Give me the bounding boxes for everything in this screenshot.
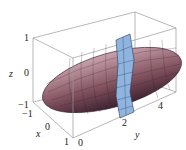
- y-axis-label: y: [135, 130, 139, 140]
- x-tick-0: 0: [45, 122, 50, 132]
- z-axis-label: z: [9, 69, 13, 79]
- z-tick-1: 1: [24, 33, 29, 43]
- y-tick-4: 4: [158, 101, 163, 111]
- band-surface: [116, 34, 134, 118]
- y-tick-2: 2: [122, 118, 127, 128]
- x-tick-minus1: −1: [22, 109, 33, 119]
- x-tick-1: 1: [64, 137, 69, 147]
- ellipsoid-surface: [35, 34, 186, 126]
- x-axis-label: x: [36, 129, 40, 139]
- y-tick-0: 0: [78, 138, 83, 148]
- z-tick-0: 0: [24, 68, 29, 78]
